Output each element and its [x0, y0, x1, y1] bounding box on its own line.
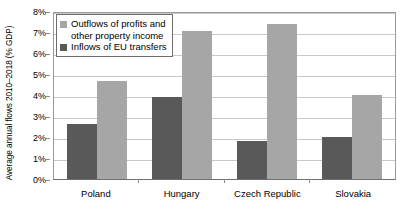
x-axis-tick-label: Poland: [53, 186, 139, 202]
y-axis-tick-label: 5%: [33, 71, 46, 80]
legend-swatch-icon: [60, 21, 67, 28]
bar-group: [225, 13, 310, 179]
legend-item: Outflows of profits and other property i…: [60, 18, 167, 41]
bar-chart: Average annual flows 2010–2018 (% GDP) 8…: [0, 0, 411, 224]
y-axis-tick-label: 0%: [33, 176, 46, 185]
y-axis-tick-mark: [46, 138, 50, 139]
y-axis-tick-mark: [46, 180, 50, 181]
y-axis-tick-mark: [46, 12, 50, 13]
x-axis-tick-label: Hungary: [139, 186, 225, 202]
x-axis-tick-mark: [309, 179, 310, 183]
legend-item-label: Outflows of profits and other property i…: [71, 18, 166, 41]
y-axis-title: Average annual flows 2010–2018 (% GDP): [2, 3, 16, 203]
y-axis-tick-label: 3%: [33, 113, 46, 122]
x-axis-tick-label: Slovakia: [310, 186, 396, 202]
y-axis-tick-label: 8%: [33, 8, 46, 17]
y-axis-tick-mark: [46, 117, 50, 118]
legend-swatch-icon: [60, 44, 67, 51]
y-axis-tick-label: 2%: [33, 134, 46, 143]
bar: [352, 95, 382, 179]
bar: [237, 141, 267, 179]
y-axis-tick-label: 4%: [33, 92, 46, 101]
y-axis-tick-mark: [46, 33, 50, 34]
y-axis-tick-label: 7%: [33, 29, 46, 38]
bar: [322, 137, 352, 179]
bar: [152, 97, 182, 179]
bar: [182, 31, 212, 179]
bar: [97, 81, 127, 179]
legend-item-label: Inflows of EU transfers: [71, 41, 167, 53]
y-axis-tick-mark: [46, 75, 50, 76]
y-axis-tick-mark: [46, 54, 50, 55]
y-axis-tick-label: 6%: [33, 50, 46, 59]
x-axis-tick-labels: PolandHungaryCzech RepublicSlovakia: [53, 186, 396, 202]
chart-legend: Outflows of profits and other property i…: [56, 14, 173, 57]
bar-group: [310, 13, 395, 179]
x-axis-tick-label: Czech Republic: [225, 186, 311, 202]
legend-item: Inflows of EU transfers: [60, 41, 167, 53]
x-axis-tick-mark: [224, 179, 225, 183]
y-axis-tick-mark: [46, 159, 50, 160]
y-axis-tick-labels: 8%7%6%5%4%3%2%1%0%: [16, 12, 49, 180]
y-axis-tick-mark: [46, 96, 50, 97]
y-axis-tick-label: 1%: [33, 155, 46, 164]
x-axis-tick-mark: [138, 179, 139, 183]
bar: [267, 24, 297, 179]
bar: [67, 124, 97, 179]
